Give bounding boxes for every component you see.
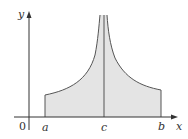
shaded-region-right bbox=[104, 15, 161, 117]
origin-label: 0 bbox=[19, 121, 26, 132]
x-axis-label: x bbox=[176, 121, 182, 132]
y-axis-label: y bbox=[18, 9, 24, 20]
tick-label-c: c bbox=[101, 122, 107, 133]
shaded-region-left bbox=[45, 15, 104, 117]
tick-label-a: a bbox=[42, 122, 49, 133]
tick-label-b: b bbox=[158, 121, 165, 132]
y-axis-arrow-icon bbox=[27, 11, 32, 18]
x-axis-arrow-icon bbox=[171, 115, 178, 120]
area-diagram bbox=[0, 0, 188, 139]
